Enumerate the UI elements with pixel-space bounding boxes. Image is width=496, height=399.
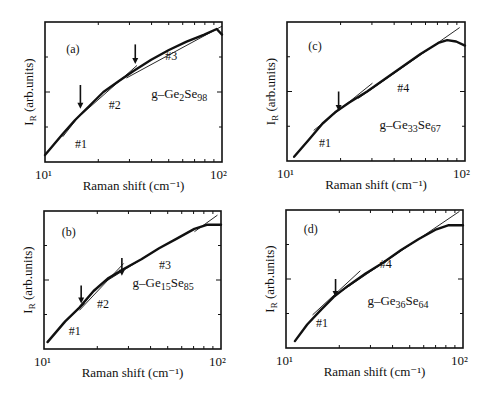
- fit-region-label: #3: [159, 258, 171, 272]
- fit-region-label: #4: [380, 257, 392, 271]
- x-tick-label: 10¹: [34, 354, 51, 369]
- fit-region-label: #3: [165, 49, 177, 63]
- panel-d: #1#4(d)g–Ge36Se6410¹10²Raman shift (cm⁻¹…: [262, 210, 468, 379]
- fit-region-label: #2: [109, 98, 121, 112]
- panel-a: #1#2#3(a)g–Ge2Se9810¹10²Raman shift (cm⁻…: [21, 22, 227, 193]
- panel-label: (d): [304, 222, 318, 236]
- panel-c: #1#4(c)g–Ge33Se6710¹10²Raman shift (cm⁻¹…: [263, 22, 470, 192]
- power-law-fit-line: [339, 211, 459, 292]
- fit-region-label: #1: [75, 137, 87, 151]
- x-axis-label: Raman shift (cm⁻¹): [325, 177, 427, 192]
- power-law-fit-line: [77, 65, 137, 118]
- sample-composition-label: g–Ge33Se67: [380, 117, 441, 134]
- fit-region-label: #1: [316, 316, 328, 330]
- panel-label: (b): [62, 225, 76, 239]
- x-tick-label: 10²: [451, 353, 468, 368]
- arrow-head-icon: [132, 58, 138, 64]
- x-axis-label: Raman shift (cm⁻¹): [83, 178, 185, 193]
- panel-b: #1#2#3(b)g–Ge15Se8510¹10²Raman shift (cm…: [20, 211, 226, 380]
- power-law-fit-line: [314, 83, 373, 130]
- panel-label: (c): [308, 39, 321, 53]
- sample-composition-label: g–Ge36Se64: [367, 293, 428, 310]
- fit-region-label: #1: [319, 136, 331, 150]
- x-tick-label: 10²: [453, 166, 470, 181]
- panel-label: (a): [66, 42, 79, 56]
- x-tick-label: 10¹: [276, 353, 293, 368]
- sample-composition-label: g–Ge15Se85: [133, 275, 194, 292]
- arrow-head-icon: [77, 103, 83, 109]
- power-law-fit-line: [194, 215, 217, 232]
- fit-region-label: #2: [97, 297, 109, 311]
- y-axis-label: IR (arb.units): [20, 246, 37, 313]
- power-law-fit-line: [62, 303, 85, 324]
- x-tick-label: 10²: [209, 354, 226, 369]
- sample-composition-label: g–Ge2Se98: [151, 86, 207, 103]
- y-axis-label: IR (arb.units): [263, 58, 280, 125]
- figure: #1#2#3(a)g–Ge2Se9810¹10²Raman shift (cm⁻…: [0, 0, 496, 399]
- y-axis-label: IR (arb.units): [262, 245, 279, 312]
- x-axis-label: Raman shift (cm⁻¹): [324, 364, 426, 379]
- x-tick-label: 10²: [210, 167, 227, 182]
- fit-region-label: #1: [69, 324, 81, 338]
- fit-region-label: #4: [397, 81, 409, 95]
- x-tick-label: 10¹: [35, 167, 52, 182]
- y-axis-label: IR (arb.units): [21, 58, 38, 125]
- x-tick-label: 10¹: [277, 166, 294, 181]
- x-axis-label: Raman shift (cm⁻¹): [82, 365, 184, 380]
